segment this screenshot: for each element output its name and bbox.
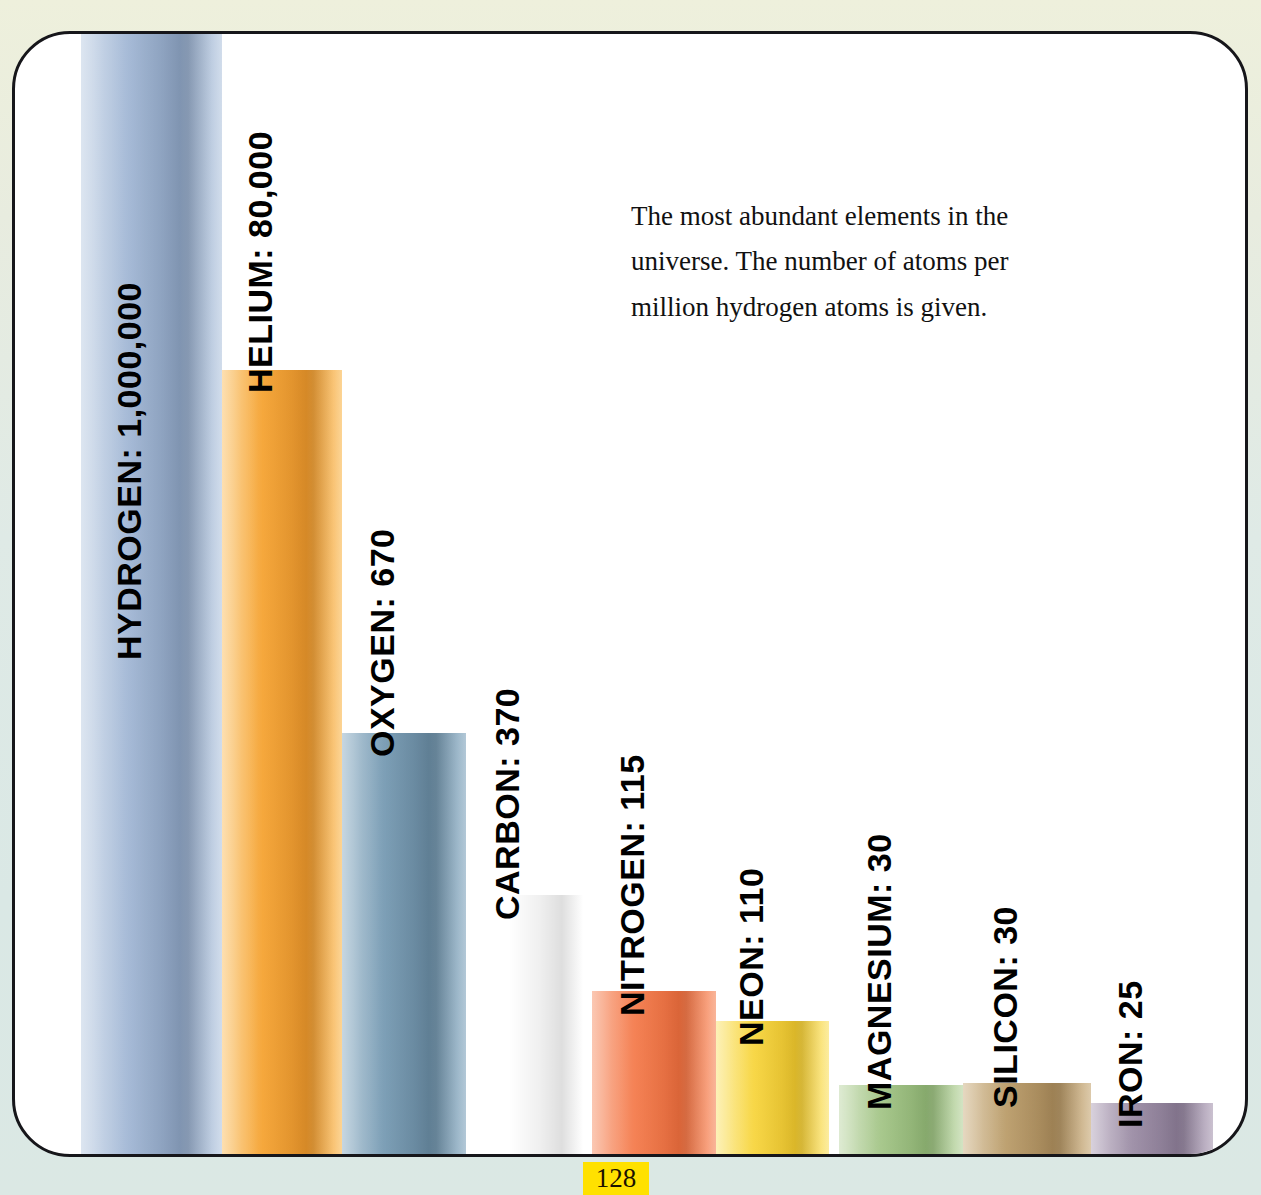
page-canvas: HYDROGEN: 1,000,000HELIUM: 80,000OXYGEN:… [0,0,1261,1195]
bar-label-silicon: SILICON: 30 [988,906,1022,1108]
bar-oxygen [342,733,466,1154]
bar-silicon [963,1083,1091,1154]
bar-label-carbon: CARBON: 370 [490,688,524,920]
page-number-badge: 128 [583,1162,649,1195]
bar-label-magnesium: MAGNESIUM: 30 [862,833,896,1110]
bar-hydrogen [81,34,222,1154]
bar-label-hydrogen: HYDROGEN: 1,000,000 [112,282,146,660]
bar-label-oxygen: OXYGEN: 670 [365,529,399,757]
bar-carbon [466,895,592,1154]
chart-caption: The most abundant elements in the univer… [631,194,1061,330]
bar-iron [1091,1103,1213,1154]
chart-frame: HYDROGEN: 1,000,000HELIUM: 80,000OXYGEN:… [12,31,1248,1157]
bar-label-nitrogen: NITROGEN: 115 [615,754,649,1016]
bar-nitrogen [592,991,716,1154]
bar-label-helium: HELIUM: 80,000 [243,131,277,393]
bar-magnesium [839,1085,963,1154]
bar-label-iron: IRON: 25 [1113,980,1147,1128]
bar-helium [222,370,342,1154]
bar-label-neon: NEON: 110 [734,868,768,1046]
